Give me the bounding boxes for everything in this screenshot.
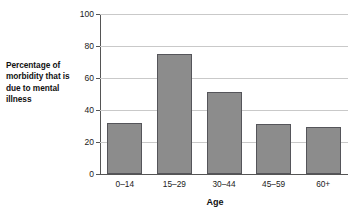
x-axis-tick-labels: 0–1415–2930–4445–5960+ [100, 179, 348, 193]
gridline [100, 78, 348, 79]
x-tick-label: 0–14 [100, 179, 150, 189]
y-axis-tick-labels: 020406080100 [68, 0, 94, 190]
bar [306, 127, 341, 174]
bar [207, 92, 242, 174]
y-tick-label: 20 [85, 138, 94, 147]
bar [157, 54, 192, 174]
y-tick-label: 80 [85, 42, 94, 51]
plot-area [100, 14, 348, 174]
y-tick-mark [96, 78, 100, 79]
y-tick-label: 0 [89, 170, 94, 179]
x-tick-label: 15–29 [150, 179, 200, 189]
x-tick-label: 45–59 [249, 179, 299, 189]
y-tick-mark [96, 142, 100, 143]
gridline [100, 46, 348, 47]
x-tick-label: 30–44 [199, 179, 249, 189]
x-axis-title: Age [100, 197, 330, 207]
gridline [100, 14, 348, 15]
y-tick-label: 60 [85, 74, 94, 83]
y-tick-mark [96, 14, 100, 15]
y-tick-mark [96, 46, 100, 47]
y-tick-mark [96, 110, 100, 111]
x-tick-label: 60+ [298, 179, 348, 189]
gridline [100, 174, 348, 175]
bar-chart-figure: Percentage of morbidity that is due to m… [0, 0, 355, 220]
y-tick-label: 40 [85, 106, 94, 115]
y-tick-mark [96, 174, 100, 175]
y-tick-label: 100 [80, 10, 94, 19]
bar [107, 123, 142, 174]
bar [256, 124, 291, 174]
